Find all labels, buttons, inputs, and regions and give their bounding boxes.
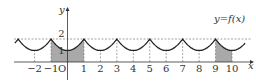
x-tick-label: −2 bbox=[27, 63, 42, 74]
x-tick-label: 4 bbox=[130, 63, 136, 74]
function-label: y=f(x) bbox=[213, 13, 245, 24]
y-axis-label: y bbox=[58, 4, 65, 15]
x-tick-label: 8 bbox=[196, 63, 202, 74]
curve-path bbox=[15, 39, 245, 51]
y-axis-arrow-icon bbox=[66, 7, 70, 11]
x-tick-label: −1 bbox=[44, 63, 59, 74]
curve-y-f-x bbox=[15, 39, 245, 51]
x-tick-label: 6 bbox=[163, 63, 169, 74]
x-axis-label: x bbox=[248, 60, 254, 71]
x-tick-label: 3 bbox=[114, 63, 120, 74]
x-tick-label: 1 bbox=[81, 63, 87, 74]
y-tick-label: 1 bbox=[58, 45, 64, 56]
x-tick-label: 9 bbox=[212, 63, 218, 74]
y-tick-label: 2 bbox=[58, 28, 64, 39]
function-graph: −2−11234567891012 y=f(x) y x O bbox=[0, 0, 256, 84]
x-tick-label: 7 bbox=[179, 63, 185, 74]
origin-label: O bbox=[58, 63, 66, 74]
x-tick-label: 5 bbox=[147, 63, 153, 74]
shaded-regions bbox=[51, 39, 232, 62]
x-tick-label: 10 bbox=[226, 63, 239, 74]
x-tick-label: 2 bbox=[97, 63, 103, 74]
